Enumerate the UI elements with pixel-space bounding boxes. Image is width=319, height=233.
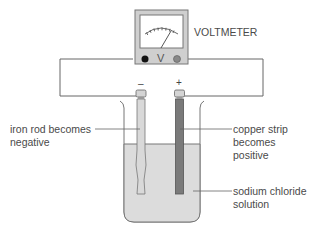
iron-label-line2: negative — [10, 136, 91, 149]
voltmeter-label: VOLTMETER — [194, 26, 257, 38]
copper-label-line2: becomes — [233, 136, 288, 149]
solution-label: sodium chloride solution — [233, 185, 307, 211]
positive-sign: + — [176, 78, 182, 88]
sodium-chloride-solution — [124, 144, 200, 222]
positive-terminal — [174, 56, 181, 63]
iron-rod-label: iron rod becomes negative — [10, 123, 91, 149]
voltmeter-symbol: V — [157, 53, 164, 64]
voltmeter-dial — [140, 15, 183, 48]
solution-label-line1: sodium chloride — [233, 185, 307, 198]
copper-label-line3: positive — [233, 149, 288, 162]
copper-label-line1: copper strip — [233, 123, 288, 136]
copper-strip — [175, 90, 185, 194]
iron-label-line1: iron rod becomes — [10, 123, 91, 136]
solution-label-line2: solution — [233, 198, 307, 211]
beaker — [120, 101, 204, 222]
copper-strip-label: copper strip becomes positive — [233, 123, 288, 162]
iron-rod — [136, 90, 146, 194]
negative-sign: – — [138, 79, 144, 89]
circuit-wire — [60, 59, 263, 96]
negative-terminal — [142, 56, 149, 63]
